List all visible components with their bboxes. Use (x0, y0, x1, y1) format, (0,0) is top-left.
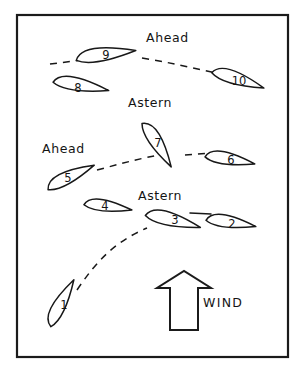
boat-number-7: 7 (154, 136, 161, 150)
boat-number-2: 2 (228, 217, 235, 231)
boat-number-4: 4 (101, 199, 108, 213)
boat-number-3: 3 (171, 213, 178, 227)
label-astern-upper: Astern (128, 95, 172, 110)
boat-number-1: 1 (60, 298, 67, 312)
track-middle (97, 154, 166, 170)
diagram-page: 12345678910 AheadAsternAheadAstern WIND (0, 0, 308, 376)
link-boat3-boat2 (190, 213, 211, 214)
label-astern-lower: Astern (138, 188, 182, 203)
boat-number-6: 6 (227, 153, 234, 167)
sailing-tacking-diagram: 12345678910 AheadAsternAheadAstern WIND (0, 0, 308, 376)
boat-link-group (190, 213, 211, 214)
label-ahead-top: Ahead (146, 30, 189, 45)
boat-number-5: 5 (64, 171, 71, 185)
track-lower (77, 228, 147, 290)
label-ahead-middle: Ahead (42, 141, 85, 156)
boat-number-9: 9 (102, 48, 109, 62)
boat-number-8: 8 (74, 81, 81, 95)
boat-number-10: 10 (232, 74, 247, 88)
track-upper-right (142, 58, 216, 73)
wind-label: WIND (203, 295, 243, 310)
